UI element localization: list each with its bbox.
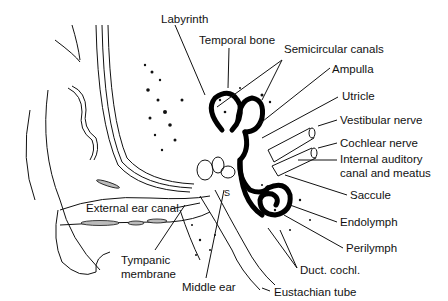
label-perilymph: Perilymph	[346, 242, 397, 255]
label-endolymph: Endolymph	[340, 216, 398, 229]
label-duct-cochl: Duct. cochl.	[300, 264, 360, 277]
label-tympanic-membrane: Tympanic	[121, 254, 170, 267]
label-cochlear-nerve: Cochlear nerve	[340, 137, 418, 150]
inner-ear-diagram: S Labyrinth Temporal bone Semicircular c…	[0, 0, 448, 301]
label-internal-auditory-canal: Internal auditory	[340, 153, 422, 166]
label-internal-auditory-canal-line2: canal and meatus	[340, 167, 431, 180]
label-external-ear-canal: External ear canal	[86, 202, 179, 215]
label-temporal-bone: Temporal bone	[199, 34, 275, 47]
label-saccule: Saccule	[350, 189, 391, 202]
label-utricle: Utricle	[342, 90, 375, 103]
label-vestibular-nerve: Vestibular nerve	[340, 114, 422, 127]
label-middle-ear: Middle ear	[182, 281, 236, 294]
label-eustachian-tube: Eustachian tube	[274, 286, 356, 299]
label-tympanic-membrane-line2: membrane	[121, 268, 176, 281]
label-ampulla: Ampulla	[332, 63, 374, 76]
label-labyrinth: Labyrinth	[161, 13, 208, 26]
small-s-mark: S	[224, 187, 230, 200]
label-semicircular-canals: Semicircular canals	[284, 43, 384, 56]
